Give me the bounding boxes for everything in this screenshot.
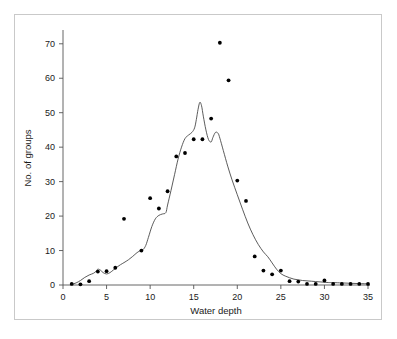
data-point <box>357 282 361 286</box>
data-point <box>288 279 292 283</box>
x-tick-label: 5 <box>104 292 109 302</box>
data-point <box>314 282 318 286</box>
data-point <box>166 189 170 193</box>
data-point <box>253 255 257 259</box>
y-tick-label: 50 <box>45 108 55 118</box>
data-point <box>227 78 231 82</box>
x-tick-label: 35 <box>363 292 373 302</box>
x-axis-title: Water depth <box>190 305 241 316</box>
data-point <box>279 269 283 273</box>
x-tick-label: 0 <box>60 292 65 302</box>
data-point <box>192 137 196 141</box>
data-point <box>157 207 161 211</box>
data-point <box>70 282 74 286</box>
y-tick-label: 30 <box>45 177 55 187</box>
data-point <box>366 282 370 286</box>
data-point <box>122 217 126 221</box>
y-axis-title: No. of groups <box>22 129 33 186</box>
figure-container: 010203040506070 05101520253035 Water dep… <box>0 0 397 339</box>
data-point <box>105 269 109 273</box>
data-point <box>270 272 274 276</box>
x-tick-label: 20 <box>232 292 242 302</box>
data-point <box>331 282 335 286</box>
data-point <box>209 117 213 121</box>
data-point <box>140 249 144 253</box>
y-tick-label: 60 <box>45 73 55 83</box>
data-point <box>323 279 327 283</box>
data-point <box>235 179 239 183</box>
data-point <box>201 137 205 141</box>
data-point <box>262 269 266 273</box>
x-tick-label: 10 <box>145 292 155 302</box>
density-curve <box>72 102 368 284</box>
data-point <box>113 266 117 270</box>
data-point <box>174 155 178 159</box>
y-tick-label: 0 <box>50 280 55 290</box>
data-point <box>244 199 248 203</box>
y-tick-label: 20 <box>45 211 55 221</box>
scatter-plot: 010203040506070 05101520253035 Water dep… <box>0 0 397 339</box>
axes <box>63 30 370 285</box>
y-axis-ticks: 010203040506070 <box>45 39 63 290</box>
data-point <box>340 282 344 286</box>
data-point <box>96 270 100 274</box>
data-point <box>148 196 152 200</box>
data-point <box>349 282 353 286</box>
data-point <box>305 282 309 286</box>
y-tick-label: 10 <box>45 246 55 256</box>
x-tick-label: 30 <box>319 292 329 302</box>
data-point <box>296 280 300 284</box>
data-point <box>79 282 83 286</box>
data-point <box>87 279 91 283</box>
data-points <box>70 41 370 286</box>
x-tick-label: 15 <box>189 292 199 302</box>
y-tick-label: 40 <box>45 142 55 152</box>
x-axis-ticks: 05101520253035 <box>60 285 373 302</box>
data-point <box>218 41 222 45</box>
x-tick-label: 25 <box>276 292 286 302</box>
data-point <box>183 151 187 155</box>
y-tick-label: 70 <box>45 39 55 49</box>
